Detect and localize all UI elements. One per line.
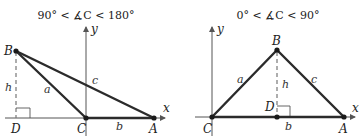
vertex-b-point: [274, 47, 279, 52]
vertex-d-label: D: [264, 100, 275, 114]
right-angle-marker: [16, 108, 30, 118]
vertex-b-point: [13, 48, 18, 53]
x-axis-label: x: [352, 101, 359, 115]
side-a-label: a: [44, 83, 51, 96]
obtuse-title: 90° < ∡C < 180°: [38, 9, 135, 22]
side-c-label: c: [311, 73, 317, 86]
acute-triangle-diagram: 0° < ∡C < 90° x y B D C A h a c b: [195, 9, 359, 136]
vertex-d-label: D: [10, 122, 21, 136]
side-c-label: c: [92, 74, 98, 87]
vertex-d-point: [274, 114, 279, 119]
side-c: [16, 51, 154, 118]
side-h-label: h: [282, 78, 289, 91]
vertex-a-label: A: [338, 122, 348, 136]
diagram-canvas: 90° < ∡C < 180° x y B D C A h a c b 0° <…: [0, 0, 359, 139]
vertex-c-label: C: [203, 122, 212, 136]
vertex-c-point: [83, 115, 88, 120]
vertex-a-point: [341, 114, 346, 119]
vertex-a-label: A: [148, 122, 158, 136]
vertex-b-label: B: [3, 44, 13, 58]
y-axis-label: y: [90, 22, 98, 36]
side-a-label: a: [237, 73, 244, 86]
side-b-label: b: [116, 120, 123, 133]
side-h-label: h: [5, 81, 12, 94]
obtuse-triangle-diagram: 90° < ∡C < 180° x y B D C A h a c b: [3, 9, 170, 136]
x-axis-label: x: [163, 101, 170, 115]
vertex-b-label: B: [271, 34, 281, 48]
vertex-c-point: [209, 114, 214, 119]
side-b-label: b: [285, 120, 292, 133]
vertex-a-point: [151, 115, 156, 120]
y-axis-label: y: [216, 22, 224, 36]
vertex-c-label: C: [77, 122, 86, 136]
acute-title: 0° < ∡C < 90°: [237, 9, 320, 22]
